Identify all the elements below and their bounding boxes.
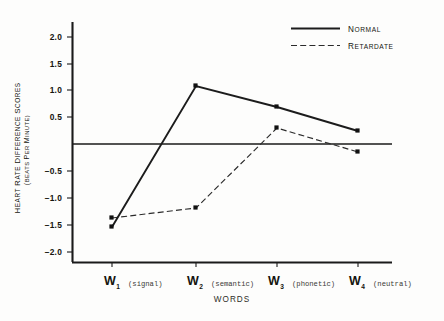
- y-tick-label-neg-1-5: −1.5: [45, 220, 62, 230]
- data-point-normal-w2: [193, 83, 197, 87]
- data-point-normal-w3: [274, 104, 278, 108]
- data-point-retardate-w2: [193, 205, 197, 209]
- figure-container: 2.0 1.5 1.0 0.5 −0.5 −1.0 −1.5 −2.0 HEAR…: [0, 0, 444, 321]
- x-tick-subscript-w4: 4: [361, 283, 365, 290]
- y-axis-subtitle: (BEATS PER MINUTE): [23, 115, 31, 185]
- x-axis-title: WORDS: [214, 295, 250, 304]
- x-tick-label-w3: W 3 (phonetic): [268, 274, 335, 290]
- x-tick-symbol-w2: W: [187, 274, 199, 288]
- series-markers-normal: [109, 83, 359, 228]
- x-tick-label-w4: W 4 (neutral): [349, 274, 412, 290]
- y-axis-title: HEART RATE DIFFERENCE SCORES: [13, 82, 22, 213]
- y-tick-label-2-0: 2.0: [50, 32, 62, 42]
- y-tick-marks: [67, 37, 72, 252]
- series-line-retardate: [112, 128, 358, 218]
- series-markers-retardate: [109, 125, 359, 219]
- legend-item-retardate: RETARDATE: [291, 42, 394, 51]
- y-tick-label-neg-2-0: −2.0: [45, 247, 62, 257]
- x-tick-descriptor-w3: (phonetic): [292, 280, 335, 288]
- line-chart: 2.0 1.5 1.0 0.5 −0.5 −1.0 −1.5 −2.0 HEAR…: [0, 0, 444, 321]
- x-tick-subscript-w2: 2: [199, 283, 203, 290]
- x-tick-symbol-w3: W: [268, 274, 280, 288]
- y-tick-label-1-5: 1.5: [50, 59, 62, 69]
- x-tick-descriptor-w4: (neutral): [373, 280, 412, 288]
- data-point-retardate-w4: [355, 149, 359, 153]
- data-point-normal-w1: [109, 224, 113, 228]
- data-point-retardate-w3: [274, 125, 278, 129]
- legend-label-normal: NORMAL: [348, 25, 381, 34]
- data-point-retardate-w1: [109, 215, 113, 219]
- legend-item-normal: NORMAL: [291, 25, 381, 34]
- y-tick-label-neg-0-5: −0.5: [45, 166, 62, 176]
- data-point-normal-w4: [355, 128, 359, 132]
- y-tick-label-0-5: 0.5: [50, 112, 62, 122]
- x-tick-label-w2: W 2 (semantic): [187, 274, 254, 290]
- x-tick-label-w1: W 1 (signal): [104, 274, 162, 290]
- x-tick-subscript-w1: 1: [116, 283, 120, 290]
- x-tick-symbol-w4: W: [349, 274, 361, 288]
- x-tick-symbol-w1: W: [104, 274, 116, 288]
- x-tick-descriptor-w1: (signal): [128, 280, 163, 288]
- legend: NORMAL RETARDATE: [291, 25, 394, 51]
- series-line-normal: [112, 86, 358, 227]
- legend-label-retardate: RETARDATE: [348, 42, 394, 51]
- y-tick-label-neg-1-0: −1.0: [45, 193, 62, 203]
- x-tick-subscript-w3: 3: [280, 283, 284, 290]
- x-tick-descriptor-w2: (semantic): [211, 280, 254, 288]
- y-tick-label-1-0: 1.0: [50, 85, 62, 95]
